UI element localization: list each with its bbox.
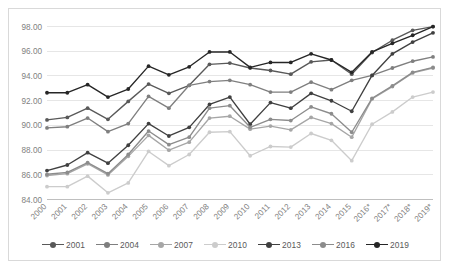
series-point (126, 153, 130, 157)
legend-item-2007[interactable]: 2007 (150, 240, 193, 250)
legend-marker-icon (258, 241, 280, 250)
series-point (330, 58, 334, 62)
series-point (208, 106, 212, 110)
x-tick-label: 2004 (110, 202, 130, 222)
series-point (65, 125, 69, 129)
series-point (289, 72, 293, 76)
series-point (228, 95, 232, 99)
legend-item-2016[interactable]: 2016 (312, 240, 355, 250)
series-point (208, 116, 212, 120)
legend-marker-icon (150, 241, 172, 250)
series-point (431, 31, 435, 35)
series-point (309, 116, 313, 120)
series-point (269, 90, 273, 94)
series-point (147, 129, 151, 133)
series-point (228, 50, 232, 54)
series-point (390, 41, 394, 45)
series-point (126, 122, 130, 126)
legend-label: 2013 (282, 240, 301, 250)
series-point (167, 164, 171, 168)
series-line (47, 92, 433, 193)
series-point (106, 172, 110, 176)
series-point (431, 25, 435, 29)
series-point (289, 106, 293, 110)
series-point (45, 91, 49, 95)
y-tick-label: 96.00 (22, 47, 43, 56)
series-point (309, 91, 313, 95)
series-point (126, 181, 130, 185)
series-point (228, 130, 232, 134)
legend-label: 2001 (66, 240, 85, 250)
series-point (106, 95, 110, 99)
legend-label: 2007 (174, 240, 193, 250)
legend-marker-icon (42, 241, 64, 250)
legend-item-2013[interactable]: 2013 (258, 240, 301, 250)
x-tick-label: 2010 (232, 202, 252, 222)
series-point (45, 185, 49, 189)
series-point (370, 122, 374, 126)
series-point (269, 117, 273, 121)
x-tick-label: 2014 (314, 202, 334, 222)
series-point (370, 74, 374, 78)
series-point (350, 159, 354, 163)
y-axis-tick-labels: 84.0086.0088.0090.0092.0094.0096.0098.00 (22, 23, 43, 205)
series-point (208, 130, 212, 134)
series-point (106, 117, 110, 121)
series-point (167, 91, 171, 95)
x-tick-label: 2016* (352, 201, 374, 223)
y-tick-label: 92.00 (22, 97, 43, 106)
series-point (86, 174, 90, 178)
series-point (411, 95, 415, 99)
series-point (330, 88, 334, 92)
legend-item-2004[interactable]: 2004 (96, 240, 139, 250)
series-point (309, 52, 313, 56)
x-tick-label: 2018* (393, 201, 415, 223)
plot-area: 84.0086.0088.0090.0092.0094.0096.0098.00… (9, 9, 442, 262)
legend-item-2001[interactable]: 2001 (42, 240, 85, 250)
series-point (208, 50, 212, 54)
series-point (45, 169, 49, 173)
series-point (431, 55, 435, 59)
series-point (65, 91, 69, 95)
series-point (350, 109, 354, 113)
series-point (147, 150, 151, 154)
series-point (350, 78, 354, 82)
series-point (269, 61, 273, 65)
series-point (309, 105, 313, 109)
series-point (289, 61, 293, 65)
series-point (248, 83, 252, 87)
series-point (330, 138, 334, 142)
series-point (330, 112, 334, 116)
x-axis-tick-labels: 2000200120022003200420052006200720082009… (29, 201, 435, 223)
series-point (411, 70, 415, 74)
series-point (167, 73, 171, 77)
series-point (45, 126, 49, 130)
y-tick-label: 90.00 (22, 121, 43, 130)
x-tick-label: 2001 (49, 202, 69, 222)
x-tick-label: 2017* (372, 201, 394, 223)
series-line (47, 67, 433, 174)
series-point (370, 96, 374, 100)
legend-item-2019[interactable]: 2019 (366, 240, 409, 250)
series-point (187, 140, 191, 144)
legend-item-2010[interactable]: 2010 (204, 240, 247, 250)
x-tick-label: 2008 (192, 202, 212, 222)
series-point (167, 106, 171, 110)
series-point (390, 110, 394, 114)
series-point (431, 90, 435, 94)
series-point (147, 95, 151, 99)
series-point (350, 135, 354, 139)
series-point (289, 145, 293, 149)
series-point (147, 64, 151, 68)
series-point (431, 66, 435, 70)
chart-container: 84.0086.0088.0090.0092.0094.0096.0098.00… (8, 8, 441, 261)
series-point (126, 87, 130, 91)
series-point (390, 84, 394, 88)
legend-marker-icon (96, 241, 118, 250)
series-point (411, 40, 415, 44)
legend-marker-icon (366, 241, 388, 250)
series-point (390, 66, 394, 70)
line-chart-svg: 84.0086.0088.0090.0092.0094.0096.0098.00… (9, 9, 442, 262)
series-point (248, 125, 252, 129)
series-point (106, 130, 110, 134)
